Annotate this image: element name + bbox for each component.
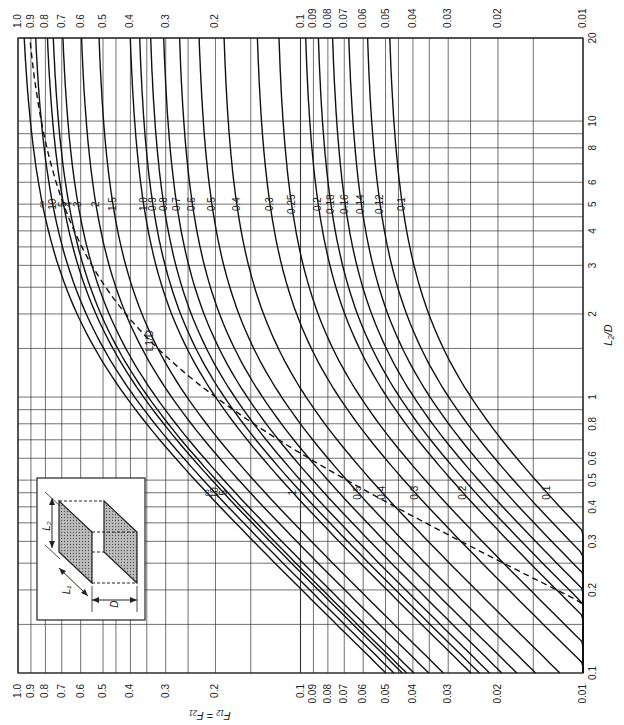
curve-label-upper: 0.1: [396, 197, 407, 211]
y-axis-title: F₁₂ = F₂₁: [189, 710, 231, 722]
x-tick: 8: [587, 145, 598, 151]
x-tick: 20: [587, 32, 598, 44]
y-tick-top: 0.7: [56, 14, 67, 28]
x-tick: 6: [587, 179, 598, 185]
x-tick: 0.3: [587, 534, 598, 548]
curve-label-lower: 0.4: [376, 485, 387, 499]
x-tick: 5: [587, 201, 598, 207]
curve-label-upper: 0.2: [312, 197, 323, 211]
view-factor-chart: ∞∞1010554321.51.010.90.80.70.60.50.50.40…: [0, 0, 624, 725]
y-tick-top: 0.07: [338, 8, 349, 28]
y-tick-bottom: 0.05: [380, 684, 391, 704]
x-tick: 1: [587, 394, 598, 400]
y-tick-bottom: 0.9: [25, 684, 36, 698]
y-tick-bottom: 0.07: [338, 684, 349, 704]
y-tick-bottom: 0.1: [295, 684, 306, 698]
x-tick: 0.6: [587, 451, 598, 465]
y-tick-top: 0.9: [25, 14, 36, 28]
y-tick-top: 0.04: [407, 8, 418, 28]
x-axis-title: L₂/D: [602, 324, 614, 345]
curve-label-upper: 0.7: [171, 197, 182, 211]
curve-label-upper: 10: [47, 198, 58, 210]
y-tick-bottom: 0.2: [209, 684, 220, 698]
y-tick-bottom: 0.4: [124, 684, 135, 698]
y-tick-bottom: 0.8: [39, 684, 50, 698]
x-tick: 0.2: [587, 583, 598, 597]
curve-label-upper: 0.4: [231, 197, 242, 211]
curve-label-upper: 0.3: [264, 197, 275, 211]
y-tick-top: 0.08: [322, 8, 333, 28]
curve-label-upper: 0.25: [286, 194, 297, 214]
x-tick: 2: [587, 311, 598, 317]
curve-label-upper: 0.8: [158, 197, 169, 211]
y-tick-top: 0.4: [124, 14, 135, 28]
y-tick-top: 0.06: [357, 8, 368, 28]
y-tick-top: 0.05: [380, 8, 391, 28]
x-tick: 0.4: [587, 499, 598, 513]
y-tick-top: 0.5: [97, 14, 108, 28]
y-tick-bottom: 0.01: [577, 684, 588, 704]
inset-label-l1: L₁: [61, 586, 72, 595]
y-tick-top: 0.8: [39, 14, 50, 28]
curve-label-upper: 3: [72, 201, 83, 207]
y-tick-bottom: 0.5: [97, 684, 108, 698]
y-tick-top: 1.0: [12, 14, 23, 28]
y-tick-bottom: 0.03: [442, 684, 453, 704]
y-tick-bottom: 0.04: [407, 684, 418, 704]
y-tick-top: 0.01: [577, 8, 588, 28]
y-tick-top: 0.6: [75, 14, 86, 28]
curve-label-upper: 0.18: [325, 194, 336, 214]
curve-label-upper: 0.12: [374, 194, 385, 214]
curve-label-upper: 0.14: [355, 194, 366, 214]
curve-label-upper: 0.6: [186, 197, 197, 211]
curve-label-upper: L1/D: [144, 330, 155, 351]
curve-label-lower: 1: [287, 490, 298, 496]
y-tick-top: 0.2: [209, 14, 220, 28]
curve-label-upper: 0.16: [339, 194, 350, 214]
y-tick-bottom: 0.06: [357, 684, 368, 704]
y-tick-bottom: 0.08: [322, 684, 333, 704]
curve-label-upper: 2: [90, 201, 101, 207]
x-tick: 10: [587, 115, 598, 127]
y-tick-bottom: 0.3: [160, 684, 171, 698]
x-tick: 4: [587, 228, 598, 234]
curve-label-lower: 0.5: [352, 485, 363, 499]
y-tick-top: 0.09: [307, 8, 318, 28]
y-tick-top: 0.02: [492, 8, 503, 28]
y-tick-top: 0.03: [442, 8, 453, 28]
inset-label-l2: L₂: [41, 521, 52, 531]
y-tick-bottom: 0.7: [56, 684, 67, 698]
curve-label-lower: 5: [218, 490, 229, 496]
curve-label-upper: 0.9: [147, 197, 158, 211]
inset-label-d: D: [109, 600, 120, 607]
y-tick-bottom: 1.0: [12, 684, 23, 698]
geometry-inset: L₂ L₁ D: [37, 478, 145, 620]
y-tick-bottom: 0.6: [75, 684, 86, 698]
x-tick: 0.5: [587, 473, 598, 487]
y-tick-bottom: 0.02: [492, 684, 503, 704]
curve-label-upper: 1.5: [107, 197, 118, 211]
curve-label-lower: 0.2: [457, 485, 468, 499]
x-tick: 3: [587, 262, 598, 268]
curve-label-upper: 0.5: [206, 197, 217, 211]
x-tick: 0.8: [587, 416, 598, 430]
curve-label-lower: 0.1: [541, 485, 552, 499]
x-tick: 0.1: [587, 666, 598, 680]
y-tick-top: 0.1: [295, 14, 306, 28]
curve-label-lower: 0.3: [409, 485, 420, 499]
y-tick-bottom: 0.09: [307, 684, 318, 704]
y-tick-top: 0.3: [160, 14, 171, 28]
